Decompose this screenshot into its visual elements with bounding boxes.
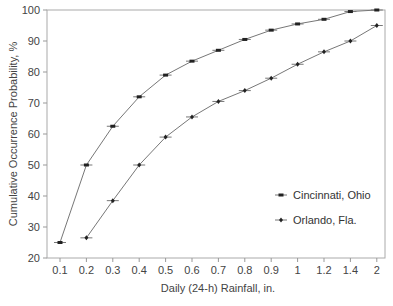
data-point — [84, 164, 89, 167]
y-tick-label: 20 — [28, 252, 40, 264]
y-axis-title: Cumulative Occurrence Probability, % — [7, 42, 19, 227]
legend: Cincinnati, OhioOrlando, Fla. — [275, 189, 371, 226]
data-point — [348, 10, 353, 13]
x-tick-label: 0.2 — [79, 264, 94, 276]
data-point — [190, 114, 194, 119]
y-axis: 2030405060708090100 — [22, 4, 47, 264]
data-point — [269, 29, 274, 32]
y-tick-label: 30 — [28, 221, 40, 233]
data-point — [296, 62, 300, 67]
data-point — [242, 38, 247, 41]
data-point — [322, 18, 327, 21]
legend-marker — [279, 194, 284, 197]
x-tick-label: 0.1 — [52, 264, 67, 276]
x-tick-label: 1.2 — [316, 264, 331, 276]
legend-marker — [279, 218, 283, 223]
x-tick-label: 0.9 — [264, 264, 279, 276]
data-point — [348, 39, 352, 44]
data-point — [375, 23, 379, 28]
data-point — [243, 88, 247, 93]
y-tick-label: 90 — [28, 35, 40, 47]
rainfall-probability-chart: 2030405060708090100 0.10.20.30.40.50.60.… — [0, 0, 393, 306]
data-point — [110, 125, 115, 128]
x-axis: 0.10.20.30.40.50.60.70.80.911.21.42 — [52, 258, 380, 276]
legend-label: Cincinnati, Ohio — [293, 189, 371, 201]
x-tick-label: 1.4 — [343, 264, 358, 276]
x-tick-label: 1 — [295, 264, 301, 276]
data-point — [216, 49, 221, 52]
series-line — [86, 26, 376, 238]
x-axis-title: Daily (24-h) Rainfall, in. — [161, 282, 275, 294]
x-tick-label: 2 — [374, 264, 380, 276]
x-tick-label: 0.4 — [132, 264, 147, 276]
data-point — [374, 9, 379, 12]
series-1 — [80, 23, 382, 240]
x-tick-label: 0.8 — [237, 264, 252, 276]
x-tick-label: 0.7 — [211, 264, 226, 276]
y-tick-label: 80 — [28, 66, 40, 78]
data-point — [163, 74, 168, 77]
data-point — [190, 60, 195, 63]
y-tick-label: 60 — [28, 128, 40, 140]
data-point — [269, 76, 273, 81]
x-tick-label: 0.6 — [184, 264, 199, 276]
series-0 — [54, 9, 383, 245]
data-point — [58, 241, 63, 244]
legend-item: Orlando, Fla. — [275, 214, 357, 226]
y-tick-label: 50 — [28, 159, 40, 171]
legend-label: Orlando, Fla. — [293, 214, 357, 226]
data-point — [137, 95, 142, 98]
legend-item: Cincinnati, Ohio — [275, 189, 371, 201]
y-tick-label: 70 — [28, 97, 40, 109]
y-tick-label: 100 — [22, 4, 40, 16]
x-tick-label: 0.5 — [158, 264, 173, 276]
y-tick-label: 40 — [28, 190, 40, 202]
data-point — [322, 49, 326, 54]
x-tick-label: 0.3 — [105, 264, 120, 276]
data-point — [216, 99, 220, 104]
data-point — [295, 22, 300, 25]
series-layer — [54, 9, 383, 245]
